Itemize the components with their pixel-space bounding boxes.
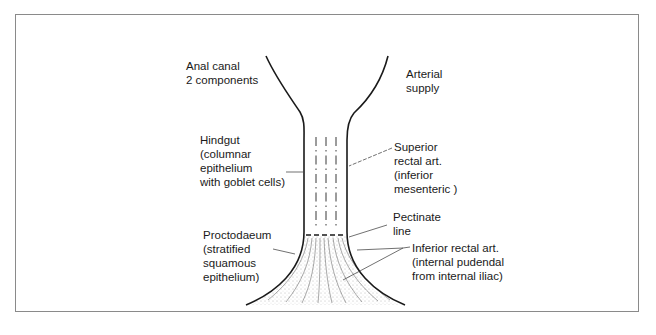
title-line-2: 2 components (186, 74, 258, 86)
proctodaeum-leader (273, 249, 295, 254)
pectinate-line-2: line (393, 225, 411, 237)
superior-line-3: (inferior (394, 169, 433, 181)
proctodaeum-line-3: squamous (203, 257, 256, 269)
pectinate-line-1: Pectinate (393, 211, 441, 223)
inferior-rectal-leader-1 (357, 248, 403, 250)
inferior-line-3: from internal iliac) (412, 270, 503, 282)
pectinate-label: Pectinate line (393, 210, 441, 238)
arterial-supply-label: Arterial supply (406, 67, 442, 95)
hindgut-line-1: Hindgut (200, 134, 240, 146)
title-label: Anal canal 2 components (186, 59, 258, 87)
anal-canal-diagram (0, 0, 656, 335)
superior-line-1: Superior (394, 141, 437, 153)
proctodaeum-line-1: Proctodaeum (203, 229, 271, 241)
hindgut-line-3: epithelium (200, 162, 252, 174)
hindgut-label: Hindgut (columnar epithelium with goblet… (200, 133, 285, 189)
superior-line-4: mesenteric ) (394, 183, 457, 195)
title-line-1: Anal canal (186, 60, 240, 72)
pectinate-leader (349, 225, 387, 237)
inferior-line-2: (internal pudendal (412, 256, 504, 268)
proctodaeum-line-4: epithelium) (203, 271, 259, 283)
proctodaeum-line-2: (stratified (203, 243, 250, 255)
inferior-line-1: Inferior rectal art. (412, 242, 499, 254)
arterial-line-1: Arterial (406, 68, 442, 80)
inferior-rectal-label: Inferior rectal art. (internal pudendal … (412, 241, 504, 283)
hindgut-dashdot-lines (316, 137, 336, 228)
superior-rectal-leader (349, 148, 392, 166)
hindgut-line-4: with goblet cells) (200, 176, 285, 188)
superior-line-2: rectal art. (394, 155, 442, 167)
proctodaeum-label: Proctodaeum (stratified squamous epithel… (203, 228, 271, 284)
superior-rectal-label: Superior rectal art. (inferior mesenteri… (394, 140, 457, 196)
inferior-rectal-arrow (403, 247, 410, 248)
hindgut-line-2: (columnar (200, 148, 251, 160)
arterial-line-2: supply (406, 82, 439, 94)
